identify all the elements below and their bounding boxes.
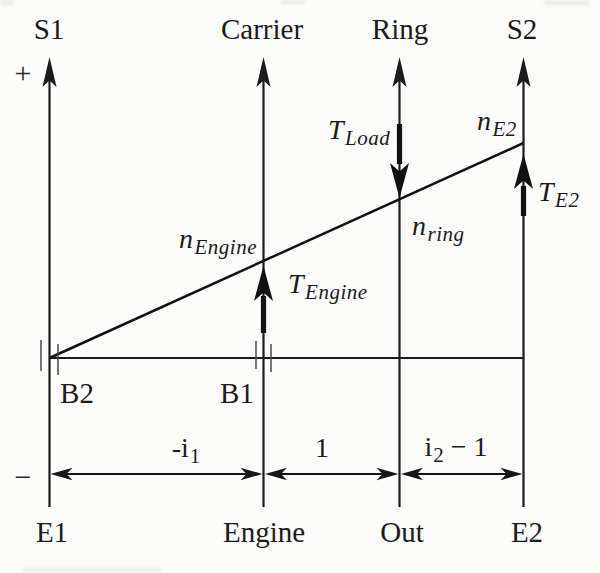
brake-b1-label: B1	[220, 379, 254, 408]
ratio-i1-label: -i1	[172, 434, 201, 462]
t-load-subscript: Load	[345, 126, 390, 150]
ratio-i2-pre: i	[424, 431, 432, 462]
t-engine-subscript: Engine	[305, 280, 367, 304]
carrier-axis-title: Carrier	[221, 15, 303, 44]
planetary-gear-lever-diagram: S1 Carrier Ring S2 + − B2 B1 E1 Engine O…	[0, 0, 600, 573]
n-ring-symbol: n	[412, 210, 427, 241]
e2-axis-label: E2	[511, 518, 543, 547]
ratio-unity-label: 1	[315, 434, 329, 462]
s1-axis-title: S1	[34, 15, 65, 44]
ratio-i1-subscript: 1	[190, 444, 201, 468]
t-e2-subscript: E2	[555, 188, 579, 212]
out-axis-label: Out	[380, 518, 424, 547]
negative-direction-sign: −	[15, 462, 32, 492]
brake-b2-label: B2	[60, 379, 94, 408]
t-load-symbol: T	[328, 114, 344, 145]
n-engine-label: nEngine	[179, 225, 257, 253]
n-ring-subscript: ring	[428, 222, 465, 246]
ratio-i2-label: i2 − 1	[424, 433, 487, 461]
positive-direction-sign: +	[15, 58, 32, 88]
ring-axis-title: Ring	[372, 15, 428, 44]
n-e2-label: nE2	[477, 107, 517, 135]
n-engine-symbol: n	[179, 223, 194, 254]
e1-axis-label: E1	[36, 518, 68, 547]
ratio-i2-subscript: 2	[433, 443, 444, 467]
engine-axis-label: Engine	[223, 518, 305, 547]
t-load-label: TLoad	[328, 116, 390, 144]
speed-lever-line	[50, 143, 524, 358]
n-ring-label: nring	[412, 212, 465, 240]
t-e2-symbol: T	[538, 176, 554, 207]
ratio-i1-pre: -i	[172, 432, 189, 463]
s2-axis-title: S2	[507, 15, 538, 44]
t-engine-symbol: T	[288, 268, 304, 299]
t-engine-label: TEngine	[288, 270, 368, 298]
t-e2-label: TE2	[538, 178, 579, 206]
ratio-i2-post: − 1	[444, 431, 488, 462]
n-e2-symbol: n	[477, 105, 492, 136]
n-e2-subscript: E2	[493, 117, 517, 141]
n-engine-subscript: Engine	[195, 235, 257, 259]
